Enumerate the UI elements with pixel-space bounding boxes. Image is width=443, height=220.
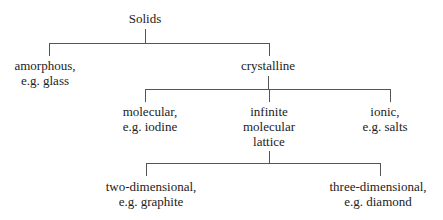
node-label: molecular [243, 119, 295, 134]
node-two-dimensional: two-dimensional, e.g. graphite [106, 179, 197, 209]
connector [145, 89, 390, 90]
node-ionic: ionic, e.g. salts [362, 104, 407, 134]
connector [390, 89, 391, 102]
connector [146, 163, 380, 164]
node-label: infinite [243, 104, 295, 119]
node-label: ionic, [362, 104, 407, 119]
connector [249, 43, 269, 44]
node-example: e.g. iodine [123, 119, 178, 134]
node-example: e.g. salts [362, 119, 407, 134]
node-three-dimensional: three-dimensional, e.g. diamond [329, 179, 426, 209]
node-label: Solids [129, 11, 162, 26]
node-label: lattice [243, 134, 295, 149]
connector [49, 43, 249, 44]
node-label: two-dimensional, [106, 179, 197, 194]
node-example: e.g. graphite [106, 194, 197, 209]
connector [49, 43, 50, 56]
node-molecular: molecular, e.g. iodine [123, 104, 178, 134]
node-example: e.g. glass [14, 73, 75, 88]
connector [268, 76, 269, 89]
node-amorphous: amorphous, e.g. glass [14, 58, 75, 88]
node-example: e.g. diamond [329, 194, 426, 209]
connector [145, 89, 146, 102]
connector [380, 163, 381, 176]
node-crystalline: crystalline [241, 58, 295, 73]
node-label: molecular, [123, 104, 178, 119]
connector [269, 151, 270, 163]
node-solids: Solids [129, 11, 162, 26]
node-label: crystalline [241, 58, 295, 73]
connector [146, 163, 147, 176]
node-label: three-dimensional, [329, 179, 426, 194]
node-label: amorphous, [14, 58, 75, 73]
node-infinite-molecular-lattice: infinite molecular lattice [243, 104, 295, 149]
connector [269, 89, 270, 102]
connector [145, 29, 146, 43]
connector [269, 43, 270, 56]
